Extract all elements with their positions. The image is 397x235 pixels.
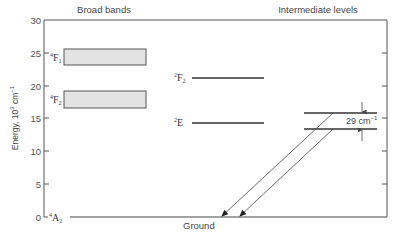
energy-level-diagram: Broad bands Intermediate levels 0 5 10 1… xyxy=(0,0,397,235)
y-axis-tick-labels: 0 5 10 15 20 25 30 xyxy=(30,15,41,223)
band-4F2 xyxy=(64,91,146,108)
transition-arrow-lower-icon xyxy=(240,129,333,216)
tick-label-20: 20 xyxy=(30,81,41,92)
label-4F1: 4F1 xyxy=(50,52,62,64)
tick-label-25: 25 xyxy=(30,48,41,59)
y-axis-ticks xyxy=(44,53,49,184)
band-4F1 xyxy=(64,49,146,65)
tick-label-0: 0 xyxy=(36,212,41,223)
right-axis-ticks xyxy=(382,53,387,184)
tick-label-10: 10 xyxy=(30,146,41,157)
ground-caption: Ground xyxy=(183,220,215,231)
label-2E: 2E xyxy=(174,117,183,128)
tick-label-5: 5 xyxy=(36,179,41,190)
header-intermediate-levels: Intermediate levels xyxy=(278,4,358,15)
y-axis-label: Energy, 103 cm−1 xyxy=(9,85,20,150)
transition-arrow-upper-icon xyxy=(222,113,333,216)
label-4A2: 4A2 xyxy=(49,212,62,224)
header-broad-bands: Broad bands xyxy=(77,4,131,15)
label-4F2: 4F2 xyxy=(50,94,62,106)
splitting-label: 29 cm−1 xyxy=(346,115,378,126)
label-2F2: 2F2 xyxy=(174,72,186,84)
tick-label-30: 30 xyxy=(30,15,41,26)
tick-label-15: 15 xyxy=(30,113,41,124)
